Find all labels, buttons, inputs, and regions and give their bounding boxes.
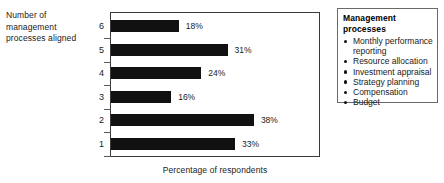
category-tick-label: 6 <box>88 21 104 31</box>
bullet-icon <box>344 101 347 104</box>
legend-item-label: Resource allocation <box>353 56 428 66</box>
x-axis-title: Percentage of respondents <box>110 165 320 175</box>
bar-value-label: 38% <box>261 114 278 126</box>
category-tick-label: 5 <box>88 45 104 55</box>
legend-item: Monthly performance reporting <box>343 36 433 56</box>
bullet-icon <box>344 80 347 83</box>
category-tick-label: 2 <box>88 115 104 125</box>
axis-tick <box>104 62 111 63</box>
axis-tick <box>104 109 111 110</box>
bar-value-label: 24% <box>208 67 225 79</box>
legend-title: Management processes <box>343 13 433 35</box>
bar <box>111 67 201 79</box>
category-tick-label: 4 <box>88 68 104 78</box>
y-axis-caption-line-1: Number of <box>6 10 102 22</box>
bullet-icon <box>344 91 347 94</box>
bar-value-label: 33% <box>242 138 259 150</box>
bullet-icon <box>344 70 347 73</box>
legend: Management processes Monthly performance… <box>337 8 438 103</box>
legend-item: Resource allocation <box>343 56 433 66</box>
axis-tick <box>104 85 111 86</box>
bar <box>111 91 171 103</box>
axis-tick <box>104 156 111 157</box>
legend-item-label: Monthly performance reporting <box>353 36 433 56</box>
plot-area <box>110 12 320 157</box>
axis-tick <box>104 132 111 133</box>
bar <box>111 138 235 150</box>
legend-item-label: Compensation <box>353 87 408 97</box>
legend-item: Budget <box>343 97 433 107</box>
legend-item-list: Monthly performance reportingResource al… <box>343 36 433 107</box>
bar <box>111 44 228 56</box>
legend-item: Strategy planning <box>343 77 433 87</box>
bar-value-label: 31% <box>235 44 252 56</box>
bar <box>111 20 179 32</box>
axis-tick <box>104 38 111 39</box>
category-tick-label: 3 <box>88 92 104 102</box>
category-tick-label: 1 <box>88 139 104 149</box>
bar-value-label: 18% <box>186 20 203 32</box>
legend-item-label: Strategy planning <box>353 77 419 87</box>
bar <box>111 114 254 126</box>
bar-value-label: 16% <box>178 91 195 103</box>
y-axis-caption-line-3: processes aligned <box>6 33 102 45</box>
bullet-icon <box>344 40 347 43</box>
legend-item-label: Budget <box>353 97 380 107</box>
bullet-icon <box>344 60 347 63</box>
legend-item: Compensation <box>343 87 433 97</box>
legend-item-label: Investment appraisal <box>353 67 431 77</box>
legend-item: Investment appraisal <box>343 67 433 77</box>
